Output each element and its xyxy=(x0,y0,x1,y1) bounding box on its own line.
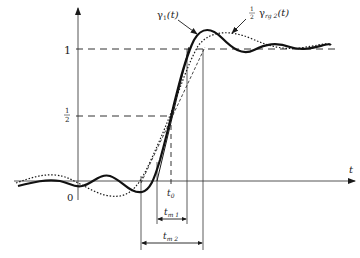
tangent-line-gamma-rg2 xyxy=(141,47,205,183)
y-tick-label-half-num: 1 xyxy=(65,107,69,115)
x-axis-label: t xyxy=(349,164,354,175)
y-tick-label-one: 1 xyxy=(64,44,71,57)
y-tick-label-half-den: 2 xyxy=(65,116,69,124)
tm2-label: tm 2 xyxy=(163,231,178,242)
step-response-diagram: 1 1 2 0 t γ1(t) 1 2 γrg 2(t) t0 tm 1 tm … xyxy=(0,0,360,258)
gamma-rg2-frac-num: 1 xyxy=(250,5,254,12)
gamma-rg2-frac-den: 2 xyxy=(250,13,254,20)
gamma-rg2-label: γrg 2(t) xyxy=(259,7,289,20)
tm1-label: tm 1 xyxy=(164,207,179,218)
gamma1-callout-arrow xyxy=(178,20,197,34)
gamma-rg2-callout-arrow xyxy=(232,19,246,33)
origin-label: 0 xyxy=(67,192,73,203)
t0-label: t0 xyxy=(167,188,175,199)
gamma1-label: γ1(t) xyxy=(157,9,179,21)
